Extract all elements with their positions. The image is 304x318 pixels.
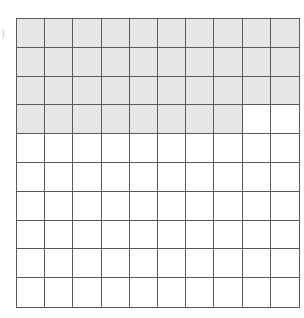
grid-cell-shaded	[271, 19, 299, 48]
grid-cell-shaded	[158, 19, 186, 48]
grid-cell-empty	[17, 278, 45, 307]
grid-cell-empty	[45, 134, 73, 163]
grid-cell-empty	[45, 278, 73, 307]
grid-cell-empty	[214, 221, 242, 250]
grid-cell-shaded	[214, 105, 242, 134]
grid-cell-shaded	[271, 48, 299, 77]
grid-cell-shaded	[17, 19, 45, 48]
grid-cell-shaded	[186, 77, 214, 106]
grid-cell-shaded	[73, 105, 101, 134]
grid-cell-empty	[17, 221, 45, 250]
grid-cell-shaded	[158, 77, 186, 106]
grid-cell-empty	[45, 221, 73, 250]
grid-cell-empty	[158, 278, 186, 307]
hundred-grid	[16, 18, 300, 308]
grid-cell-empty	[243, 278, 271, 307]
grid-cell-empty	[73, 221, 101, 250]
grid-cell-empty	[214, 134, 242, 163]
grid-cell-shaded	[45, 19, 73, 48]
grid-cell-empty	[73, 163, 101, 192]
grid-cell-empty	[186, 134, 214, 163]
grid-cell-shaded	[130, 19, 158, 48]
grid-cell-empty	[102, 221, 130, 250]
grid-cell-shaded	[186, 105, 214, 134]
grid-cell-empty	[17, 249, 45, 278]
grid-cell-shaded	[73, 19, 101, 48]
grid-cell-empty	[243, 192, 271, 221]
grid-cell-empty	[73, 249, 101, 278]
grid-cell-empty	[271, 134, 299, 163]
grid-cell-shaded	[214, 19, 242, 48]
grid-cell-empty	[271, 105, 299, 134]
grid-cell-shaded	[271, 77, 299, 106]
grid-cell-empty	[73, 134, 101, 163]
grid-cell-shaded	[243, 77, 271, 106]
grid-cell-empty	[243, 105, 271, 134]
grid-cell-empty	[102, 134, 130, 163]
figure-canvas: )	[0, 0, 304, 318]
grid-cell-empty	[186, 192, 214, 221]
grid-cell-empty	[271, 221, 299, 250]
grid-cell-empty	[102, 249, 130, 278]
grid-cell-empty	[214, 192, 242, 221]
grid-cell-empty	[17, 134, 45, 163]
grid-cell-shaded	[17, 77, 45, 106]
grid-cell-shaded	[130, 105, 158, 134]
grid-cell-empty	[73, 192, 101, 221]
grid-cell-empty	[214, 163, 242, 192]
grid-cell-empty	[130, 249, 158, 278]
grid-cell-shaded	[186, 19, 214, 48]
grid-cell-shaded	[17, 48, 45, 77]
grid-cell-shaded	[214, 48, 242, 77]
grid-cell-empty	[17, 192, 45, 221]
grid-cell-empty	[158, 134, 186, 163]
grid-cell-empty	[186, 278, 214, 307]
grid-cell-empty	[102, 278, 130, 307]
grid-cell-shaded	[102, 77, 130, 106]
grid-cell-shaded	[158, 105, 186, 134]
grid-cell-shaded	[158, 48, 186, 77]
grid-cell-shaded	[243, 19, 271, 48]
grid-cell-empty	[45, 192, 73, 221]
grid-cell-empty	[271, 249, 299, 278]
grid-cell-empty	[158, 163, 186, 192]
grid-cell-shaded	[243, 48, 271, 77]
grid-cell-empty	[186, 221, 214, 250]
grid-cell-shaded	[45, 77, 73, 106]
grid-cell-empty	[214, 249, 242, 278]
grid-cell-shaded	[186, 48, 214, 77]
grid-cell-empty	[186, 249, 214, 278]
grid-cell-empty	[158, 192, 186, 221]
grid-cell-empty	[45, 249, 73, 278]
grid-cell-empty	[243, 163, 271, 192]
grid-cell-shaded	[102, 19, 130, 48]
grid-cell-empty	[271, 192, 299, 221]
grid-cell-empty	[214, 278, 242, 307]
grid-cell-shaded	[73, 48, 101, 77]
grid-cell-shaded	[73, 77, 101, 106]
grid-cell-empty	[243, 221, 271, 250]
grid-cell-shaded	[214, 77, 242, 106]
grid-cell-empty	[102, 163, 130, 192]
grid-cell-shaded	[17, 105, 45, 134]
grid-cell-empty	[130, 278, 158, 307]
grid-cell-empty	[130, 134, 158, 163]
grid-cell-empty	[73, 278, 101, 307]
grid-cell-empty	[158, 249, 186, 278]
grid-cell-empty	[17, 163, 45, 192]
grid-cell-empty	[243, 134, 271, 163]
grid-cell-empty	[45, 163, 73, 192]
grid-cell-empty	[158, 221, 186, 250]
grid-cell-empty	[271, 163, 299, 192]
grid-cell-shaded	[130, 77, 158, 106]
grid-cell-empty	[130, 221, 158, 250]
grid-cell-shaded	[102, 48, 130, 77]
grid-cell-empty	[186, 163, 214, 192]
cropped-label-fragment: )	[1, 29, 5, 39]
grid-cell-empty	[130, 163, 158, 192]
grid-cell-shaded	[45, 48, 73, 77]
grid-cell-empty	[271, 278, 299, 307]
grid-cell-shaded	[102, 105, 130, 134]
grid-cell-empty	[102, 192, 130, 221]
grid-cell-shaded	[45, 105, 73, 134]
